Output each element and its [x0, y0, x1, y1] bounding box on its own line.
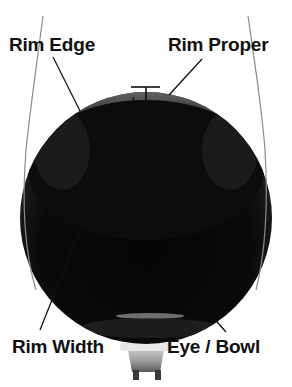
label-eye-bowl: Eye / Bowl — [167, 336, 260, 358]
leader-rim-edge — [53, 57, 80, 111]
label-rim-proper: Rim Proper — [168, 34, 268, 56]
label-rim-width: Rim Width — [12, 336, 104, 358]
bowl-diagram — [0, 0, 292, 387]
label-rim-edge: Rim Edge — [9, 34, 95, 56]
stem — [120, 343, 172, 380]
leader-rim-proper — [169, 59, 202, 95]
sphere-bowl — [0, 30, 292, 344]
